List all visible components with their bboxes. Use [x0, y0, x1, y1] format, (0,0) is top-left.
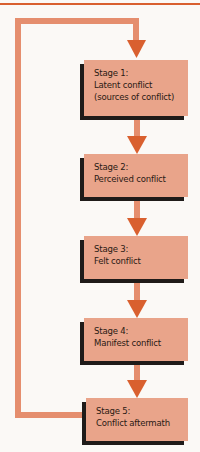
stage-1-title-line-2: (sources of conflict) [94, 91, 188, 103]
stage-box-1: Stage 1: Latent conflict (sources of con… [84, 60, 188, 116]
stage-box-2: Stage 2: Perceived conflict [84, 154, 188, 197]
stage-4-title: Manifest conflict [94, 337, 188, 349]
stage-box-5: Stage 5: Conflict aftermath [86, 398, 188, 441]
stage-3-title: Felt conflict [94, 255, 188, 267]
connector-1-2-arrowhead [127, 136, 147, 154]
stage-5-title: Conflict aftermath [96, 417, 188, 429]
connector-4-5-arrowhead [127, 380, 147, 398]
stage-box-3: Stage 3: Felt conflict [84, 236, 188, 279]
stage-2-number: Stage 2: [94, 161, 188, 173]
stage-box-4: Stage 4: Manifest conflict [84, 318, 188, 361]
connector-3-4-arrowhead [127, 300, 147, 318]
connector-2-3-stem [134, 197, 140, 220]
stage-1-number: Stage 1: [94, 67, 188, 79]
feedback-loop-arrowhead [127, 40, 146, 58]
connector-3-4-stem [134, 279, 140, 302]
stage-3-number: Stage 3: [94, 243, 188, 255]
stage-2-title: Perceived conflict [94, 173, 188, 185]
connector-4-5-stem [134, 361, 140, 382]
stage-5-number: Stage 5: [96, 405, 188, 417]
stage-1-title-line-1: Latent conflict [94, 79, 188, 91]
stage-4-number: Stage 4: [94, 325, 188, 337]
connector-1-2-stem [134, 116, 140, 138]
connector-2-3-arrowhead [127, 218, 147, 236]
conflict-process-diagram: Stage 1: Latent conflict (sources of con… [0, 0, 200, 452]
